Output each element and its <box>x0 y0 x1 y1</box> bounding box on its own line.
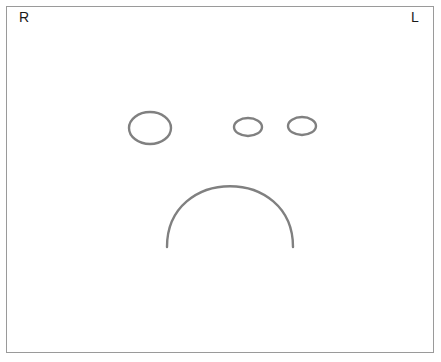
right-small-ellipse <box>288 117 316 135</box>
figure-canvas: R L <box>0 0 441 362</box>
orientation-label-left: L <box>411 10 419 24</box>
middle-small-ellipse <box>234 118 262 136</box>
orientation-label-right: R <box>19 10 29 24</box>
inverted-u-arc <box>167 186 293 247</box>
shape-layer <box>0 0 441 362</box>
large-ellipse <box>129 112 171 144</box>
